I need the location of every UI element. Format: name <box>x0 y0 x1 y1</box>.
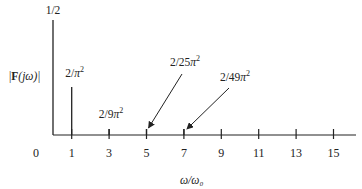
annotation-arrow <box>149 74 183 128</box>
x-tick-label: 13 <box>290 146 302 160</box>
x-axis-label: ω/ω₀ <box>180 174 203 186</box>
x-tick-label: 15 <box>328 146 340 160</box>
x-tick-label: 3 <box>106 146 112 160</box>
annotations: 1/22/π22/9π22/25π22/49π2 <box>46 4 250 129</box>
x-tick-label: 7 <box>181 146 187 160</box>
x-tick-label: 5 <box>144 146 150 160</box>
x-tick-label: 11 <box>253 146 265 160</box>
spectrum-chart: 013579111315 1/22/π22/9π22/25π22/49π2 |F… <box>0 0 362 189</box>
data-label: 2/49π2 <box>220 69 250 83</box>
x-ticks: 013579111315 <box>33 129 340 160</box>
annotation-arrow <box>187 88 229 129</box>
x-tick-label: 9 <box>218 146 224 160</box>
x-tick-label: 1 <box>69 146 75 160</box>
data-label: 1/2 <box>46 4 61 16</box>
data-label: 2/π2 <box>65 65 84 79</box>
data-label: 2/25π2 <box>170 54 200 68</box>
x-tick-label: 0 <box>33 146 39 160</box>
data-label: 2/9π2 <box>99 106 123 120</box>
y-axis-label: |F(jω)| <box>9 70 40 83</box>
